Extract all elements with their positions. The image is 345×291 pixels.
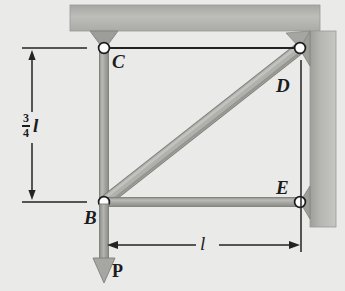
fraction-denominator: 4 [22, 127, 30, 140]
joint-label-E: E [276, 178, 289, 197]
fraction-three-quarters: 3 4 [22, 112, 30, 140]
member-column-CB [100, 46, 109, 204]
dimension-unit-length: l [33, 116, 38, 135]
member-tie-BE [102, 198, 302, 207]
joint-pin-E [295, 197, 306, 208]
figure-canvas [0, 0, 345, 291]
joint-pin-D [295, 43, 306, 54]
fraction-numerator: 3 [22, 112, 30, 125]
joint-label-B: B [84, 208, 97, 227]
dimension-label-vertical: 3 4 l [22, 112, 38, 140]
wall-support-surface [310, 31, 336, 227]
joint-label-C: C [112, 52, 125, 71]
load-label-P: P [112, 262, 123, 280]
ceiling-support-surface [70, 5, 320, 31]
joint-label-D: D [276, 76, 290, 95]
dimension-label-horizontal: l [200, 234, 205, 253]
joint-pin-C [99, 43, 110, 54]
truss-figure: C D E B P l 3 4 l [0, 0, 345, 291]
